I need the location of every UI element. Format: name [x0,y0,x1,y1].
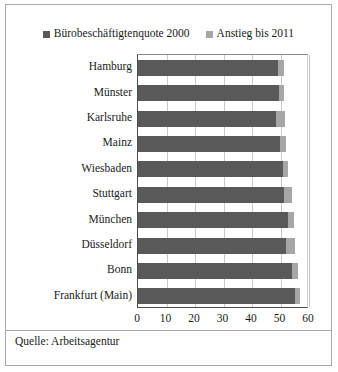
plot-area [137,54,308,308]
bar-segment-increase [283,161,288,177]
bar-segment-base [138,263,292,279]
bar-row [138,187,292,203]
bar-row [138,60,284,76]
bar-row [138,263,298,279]
y-axis-label: Frankfurt (Main) [16,289,132,302]
bar-segment-increase [292,263,298,279]
bar-row [138,288,300,304]
bar-segment-increase [280,136,286,152]
x-axis-tick-label: 30 [217,311,229,325]
y-axis-label: Stuttgart [16,187,132,200]
bar-row [138,212,294,228]
bar-segment-increase [279,85,284,101]
x-axis-tick-label: 20 [188,311,200,325]
legend-entry: Anstieg bis 2011 [206,28,295,40]
bar-segment-base [138,60,278,76]
bar-segment-increase [286,238,295,254]
y-axis-label: Münster [16,86,132,99]
bar-segment-base [138,212,288,228]
bar-segment-increase [288,212,294,228]
legend-swatch-icon [206,31,213,38]
y-axis-label: Mainz [16,136,132,149]
bar-segment-base [138,238,286,254]
x-axis-tick-label: 40 [245,311,257,325]
bar-segment-increase [295,288,300,304]
x-axis-tick-label: 50 [274,311,286,325]
bar-segment-base [138,111,276,127]
y-axis-category-labels: HamburgMünsterKarlsruheMainzWiesbadenStu… [16,54,132,308]
legend-label: Anstieg bis 2011 [217,28,295,40]
bar-segment-increase [276,111,285,127]
bar-segment-base [138,288,295,304]
bar-row [138,85,284,101]
chart-figure: Bürobeschäftigtenquote 2000Anstieg bis 2… [5,4,332,366]
bar-row [138,238,295,254]
bar-segment-base [138,187,284,203]
bar-segment-base [138,136,280,152]
bar-segment-increase [284,187,292,203]
bar-row [138,136,286,152]
gridline [309,55,310,307]
source-divider [6,330,331,331]
bar-segment-increase [278,60,284,76]
legend-label: Bürobeschäftigtenquote 2000 [54,28,190,40]
y-axis-label: Karlsruhe [16,111,132,124]
x-axis-tick-labels: 0102030405060 [137,311,308,327]
bar-segment-base [138,85,279,101]
legend-swatch-icon [43,31,50,38]
legend-entry: Bürobeschäftigtenquote 2000 [43,28,190,40]
chart-legend: Bürobeschäftigtenquote 2000Anstieg bis 2… [6,25,331,43]
x-axis-tick-label: 60 [302,311,314,325]
bar-segment-base [138,161,283,177]
x-axis-tick-label: 0 [134,311,140,325]
y-axis-label: Bonn [16,263,132,276]
x-axis-tick-label: 10 [160,311,172,325]
y-axis-label: Hamburg [16,60,132,73]
source-note: Quelle: Arbeitsagentur [15,335,119,347]
y-axis-label: Wiesbaden [16,162,132,175]
bar-row [138,111,285,127]
y-axis-label: Düsseldorf [16,238,132,251]
y-axis-label: München [16,213,132,226]
bar-series-container [138,55,307,307]
bar-row [138,161,288,177]
